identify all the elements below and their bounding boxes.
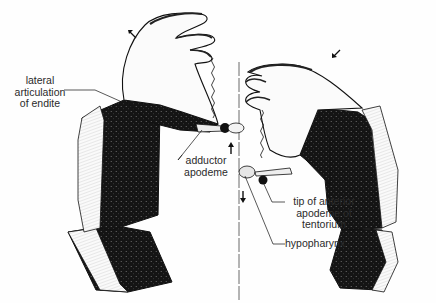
label-adductor-apodeme: adductor apodeme xyxy=(182,155,230,178)
label-line: hypopharynx xyxy=(285,237,345,249)
label-line: of endite xyxy=(14,98,66,110)
arrow-right-top xyxy=(332,50,340,58)
label-line: tentorium xyxy=(285,219,363,231)
diagram-canvas: lateral articulation of endite adductor … xyxy=(0,0,436,303)
label-tentorium-tip: tip of anterior apodeme of tentorium xyxy=(285,196,363,231)
leader-tentorium xyxy=(263,182,285,202)
right-maxilla xyxy=(239,64,398,292)
label-line: lateral xyxy=(14,75,66,87)
arrow-center-up xyxy=(228,142,234,154)
label-lateral-articulation: lateral articulation of endite xyxy=(14,75,66,110)
label-line: adductor xyxy=(182,155,230,167)
left-maxilla xyxy=(68,13,244,292)
label-hypopharynx: hypopharynx xyxy=(285,238,355,250)
leader-lateral-articulation xyxy=(64,90,122,102)
label-line: apodeme xyxy=(182,167,230,179)
maxillae-illustration xyxy=(0,0,436,303)
arrow-center-down xyxy=(240,191,246,203)
arrow-left-top xyxy=(128,30,136,38)
label-line: tip of anterior xyxy=(285,196,363,208)
